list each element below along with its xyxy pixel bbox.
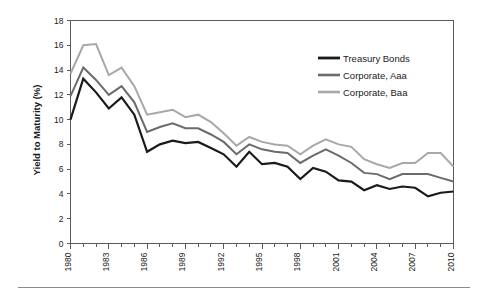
legend-label-3: Corporate, Baa	[343, 87, 408, 98]
x-tick-label: 2007	[407, 252, 417, 271]
y-tick-label: 8	[59, 139, 64, 149]
x-axis-ticks: 1980198319861989199219951998200120042007…	[63, 244, 456, 272]
x-tick-label: 1989	[177, 252, 187, 271]
x-tick-label: 1998	[292, 252, 302, 271]
legend-label-2: Corporate, Aaa	[343, 70, 408, 81]
x-tick-label: 2001	[331, 252, 341, 271]
footer-divider	[18, 287, 470, 288]
y-axis-title: Yield to Maturity (%)	[31, 85, 42, 176]
x-tick-label: 1992	[216, 252, 226, 271]
y-axis-ticks: 024681012141618	[54, 16, 70, 249]
y-tick-label: 12	[54, 90, 64, 100]
yield-to-maturity-line-chart: 024681012141618 198019831986198919921995…	[0, 0, 489, 297]
y-tick-label: 10	[54, 115, 64, 125]
y-tick-label: 4	[59, 189, 64, 199]
x-tick-label: 2004	[369, 252, 379, 271]
x-tick-label: 2010	[446, 252, 456, 271]
y-tick-label: 16	[54, 40, 64, 50]
x-tick-label: 1983	[101, 252, 111, 271]
y-tick-label: 0	[59, 239, 64, 249]
chart-figure: 024681012141618 198019831986198919921995…	[0, 0, 489, 297]
x-tick-label: 1980	[63, 252, 73, 271]
y-tick-label: 2	[59, 214, 64, 224]
chart-legend: Treasury BondsCorporate, AaaCorporate, B…	[318, 53, 410, 98]
y-tick-label: 6	[59, 164, 64, 174]
y-tick-label: 18	[54, 16, 64, 26]
legend-label-1: Treasury Bonds	[343, 53, 410, 64]
x-tick-label: 1995	[254, 252, 264, 271]
series-lines	[71, 44, 454, 196]
x-tick-label: 1986	[139, 252, 149, 271]
y-tick-label: 14	[54, 65, 64, 75]
